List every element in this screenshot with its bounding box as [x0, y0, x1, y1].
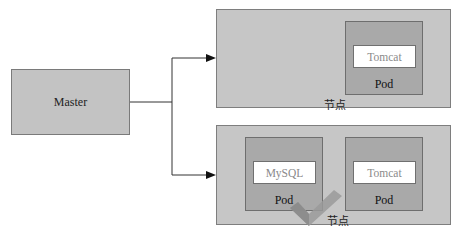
container-label: Tomcat	[367, 167, 401, 179]
master-label: Master	[54, 95, 87, 110]
pod-label: Pod	[346, 77, 422, 92]
checkmark-icon	[290, 190, 342, 228]
arrow-head-icon	[206, 54, 216, 62]
node-1-label: 节点	[324, 96, 346, 112]
pod-label: Pod	[346, 193, 422, 208]
master-box: Master	[11, 69, 130, 135]
arrow-head-icon	[206, 171, 216, 179]
container-label: Tomcat	[367, 51, 401, 63]
container-mysql: MySQL	[253, 161, 316, 184]
container-tomcat: Tomcat	[353, 161, 416, 184]
container-tomcat: Tomcat	[353, 45, 416, 68]
container-label: MySQL	[266, 167, 304, 179]
